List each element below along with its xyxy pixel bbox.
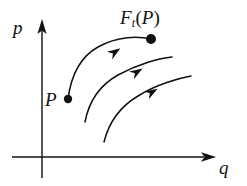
trajectory-curve-2 — [85, 57, 172, 122]
flow-trajectories — [68, 37, 191, 142]
flow-map-argument: P — [142, 7, 154, 28]
position-axis-label: q — [219, 158, 229, 177]
flow-direction-arrowheads — [107, 48, 158, 99]
phase-space-flow-figure: p q P Ft(P) — [0, 0, 247, 186]
point-ft-p-dot — [146, 34, 156, 44]
momentum-axis-label: p — [13, 18, 23, 37]
flow-arrowhead-3 — [144, 89, 158, 100]
point-p-label: P — [45, 90, 57, 109]
point-ft-p-label: Ft(P) — [120, 8, 160, 29]
point-p-dot — [64, 95, 72, 103]
flow-map-close-paren: ) — [153, 7, 159, 28]
flow-arrowhead-1 — [107, 48, 120, 59]
flow-map-function-name: F — [120, 7, 132, 28]
trajectory-curve-1 — [68, 37, 151, 99]
flow-arrowhead-2 — [129, 69, 142, 80]
trajectory-curve-3 — [104, 76, 191, 142]
